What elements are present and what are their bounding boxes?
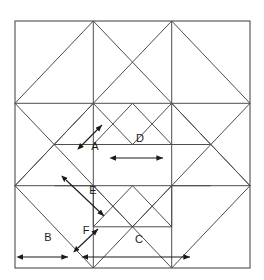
diagonal-bl <box>15 186 93 268</box>
label-C: C <box>135 233 143 245</box>
label-D: D <box>136 132 144 144</box>
label-F: F <box>83 224 90 236</box>
label-B: B <box>44 231 51 243</box>
label-A: A <box>91 140 99 152</box>
diagonal-tl-down <box>15 21 93 103</box>
diagonal-br <box>172 186 250 268</box>
diagonal-tr-down <box>172 21 250 103</box>
quilt-block-figure: A B C D E F <box>0 0 264 280</box>
label-E: E <box>89 184 96 196</box>
measurement-labels: A B C D E F <box>44 132 144 245</box>
quilt-block-diagram: A B C D E F <box>0 0 264 280</box>
center-block-lines <box>54 103 211 227</box>
